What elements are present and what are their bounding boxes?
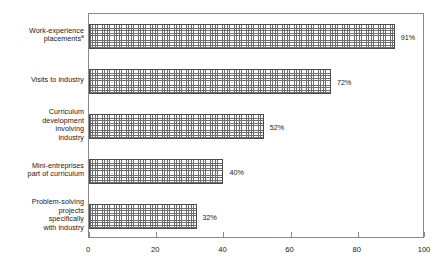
bar-group: 32% [89, 204, 425, 229]
bar [89, 69, 331, 94]
category-label: Curriculumdevelopmentinvolvingindustry [0, 108, 84, 142]
x-axis-tick-label: 40 [218, 245, 226, 254]
bar [89, 24, 395, 49]
x-axis-tick [424, 232, 425, 237]
bar [89, 114, 264, 139]
bar-chart: Work-experienceplacementsaVisits to indu… [0, 0, 448, 273]
x-axis-tick [89, 232, 90, 237]
x-axis-tick [156, 232, 157, 237]
plot-area: 91%72%52%40%32% [88, 13, 424, 238]
category-label: Visits to industry [0, 76, 84, 85]
bar-value-label: 40% [229, 167, 243, 176]
category-label-line: part of curriculum [0, 170, 84, 179]
bar-value-label: 72% [337, 77, 351, 86]
footnote-marker: a [81, 33, 84, 39]
category-label-line: with industry [0, 224, 84, 233]
bar-group: 91% [89, 24, 425, 49]
category-label: Problem-solvingprojectsspecificallywith … [0, 198, 84, 232]
category-label: Work-experienceplacementsa [0, 27, 84, 44]
x-axis-tick [223, 232, 224, 237]
x-axis-tick [358, 232, 359, 237]
bar-group: 52% [89, 114, 425, 139]
bar-value-label: 32% [203, 212, 217, 221]
x-axis-tick-label: 20 [151, 245, 159, 254]
bar-group: 72% [89, 69, 425, 94]
category-label-line: industry [0, 134, 84, 143]
category-label: Mini-entreprisespart of curriculum [0, 162, 84, 179]
category-axis: Work-experienceplacementsaVisits to indu… [0, 13, 84, 238]
bar [89, 159, 223, 184]
x-axis-tick-label: 80 [353, 245, 361, 254]
x-axis-tick [291, 232, 292, 237]
bar-group: 40% [89, 159, 425, 184]
x-axis-tick-label: 60 [285, 245, 293, 254]
bar [89, 204, 197, 229]
x-axis-tick-label: 0 [86, 245, 90, 254]
bar-value-label: 52% [270, 122, 284, 131]
x-axis-labels: 020406080100 [88, 241, 424, 259]
bar-value-label: 91% [401, 32, 415, 41]
category-label-line: Visits to industry [0, 76, 84, 85]
x-axis-tick-label: 100 [418, 245, 431, 254]
category-label-line: placementsa [0, 35, 84, 44]
